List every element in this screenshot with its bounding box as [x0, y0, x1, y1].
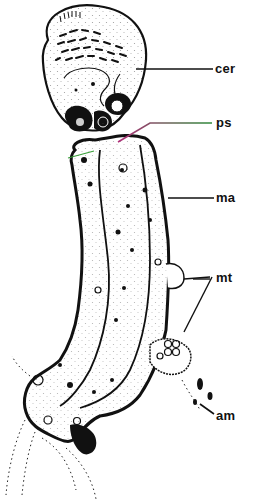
- metacercaria-cluster: [150, 339, 191, 375]
- label-am: am: [216, 409, 235, 422]
- cercaria-head: [43, 5, 146, 131]
- am-spots: [193, 378, 213, 405]
- label-cercaria: cer: [215, 62, 235, 75]
- label-ps: ps: [216, 116, 232, 129]
- label-ma: ma: [216, 191, 235, 204]
- body-tube: [24, 135, 190, 454]
- leader-am: [200, 404, 214, 414]
- label-mt: mt: [216, 271, 233, 284]
